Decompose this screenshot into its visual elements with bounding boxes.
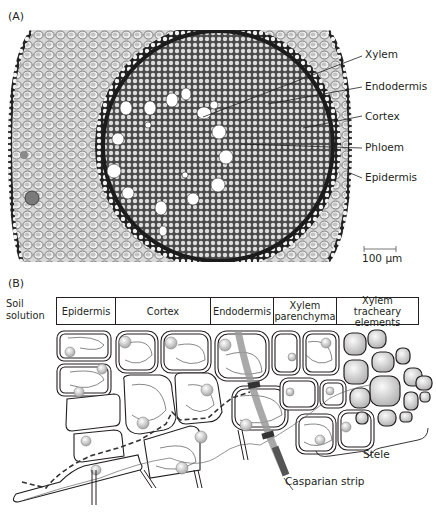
callout-phloem: Phloem	[365, 141, 404, 153]
soil-solution-label: Soil solution	[6, 298, 45, 322]
header-cortex: Cortex	[116, 298, 211, 324]
root-tissue-diagram	[0, 325, 436, 513]
casparian-strip-label: Casparian strip	[285, 475, 364, 487]
tissue-header-row: Epidermis Cortex Endodermis Xylemparench…	[56, 297, 419, 325]
header-xylem-parenchyma: Xylemparenchyma	[274, 298, 337, 324]
panel-b-label: (B)	[8, 277, 24, 290]
callout-cortex: Cortex	[365, 110, 400, 122]
scale-bar-label: 100 µm	[362, 252, 402, 264]
callout-xylem: Xylem	[365, 48, 398, 60]
callout-epidermis: Epidermis	[365, 171, 417, 183]
header-endodermis: Endodermis	[211, 298, 274, 324]
callout-endodermis: Endodermis	[365, 80, 427, 92]
header-epidermis: Epidermis	[57, 298, 116, 324]
stele-label: Stele	[363, 448, 390, 460]
root-cross-section-micrograph	[0, 0, 436, 270]
header-xylem-tracheary: Xylem trachearyelements	[337, 298, 418, 324]
